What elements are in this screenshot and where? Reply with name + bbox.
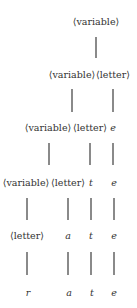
nonterminal-node: ⟨letter⟩ bbox=[51, 178, 85, 188]
tree-edge bbox=[113, 198, 115, 220]
tree-edge bbox=[112, 143, 114, 165]
nonterminal-node: ⟨variable⟩ bbox=[73, 17, 119, 27]
tree-edge bbox=[26, 198, 28, 220]
terminal-node: t bbox=[89, 231, 93, 241]
terminal-node: a bbox=[66, 288, 72, 298]
tree-edge bbox=[67, 198, 69, 220]
terminal-node: a bbox=[65, 231, 71, 241]
tree-edge bbox=[26, 252, 28, 275]
nonterminal-node: ⟨variable⟩ bbox=[3, 178, 49, 188]
tree-edge bbox=[67, 252, 69, 275]
terminal-node: e bbox=[111, 178, 117, 188]
nonterminal-node: ⟨variable⟩ bbox=[49, 70, 95, 80]
terminal-node: r bbox=[26, 288, 31, 298]
tree-edge bbox=[90, 198, 92, 220]
tree-edge bbox=[112, 89, 114, 112]
tree-edge bbox=[95, 37, 97, 58]
terminal-node: e bbox=[111, 231, 117, 241]
tree-edge bbox=[71, 89, 73, 112]
terminal-node: e bbox=[111, 288, 117, 298]
terminal-node: t bbox=[90, 288, 94, 298]
terminal-node: t bbox=[89, 178, 93, 188]
nonterminal-node: ⟨letter⟩ bbox=[96, 70, 130, 80]
tree-edge bbox=[48, 143, 50, 165]
tree-edge bbox=[90, 252, 92, 275]
nonterminal-node: ⟨variable⟩ bbox=[25, 123, 71, 133]
tree-edge bbox=[89, 143, 91, 165]
nonterminal-node: ⟨letter⟩ bbox=[73, 123, 107, 133]
terminal-node: e bbox=[110, 123, 116, 133]
tree-edge bbox=[113, 252, 115, 275]
nonterminal-node: ⟨letter⟩ bbox=[10, 231, 44, 241]
